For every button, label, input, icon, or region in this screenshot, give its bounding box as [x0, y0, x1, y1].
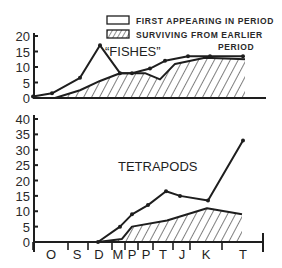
legend-label-first-appearing: FIRST APPEARING IN PERIOD: [136, 16, 274, 26]
surviving-area: [55, 58, 245, 98]
data-point: [208, 54, 212, 58]
data-point: [206, 198, 210, 202]
period-label: O: [46, 247, 56, 262]
y-tick-label: 40: [16, 112, 30, 127]
data-point: [130, 71, 134, 75]
y-tick-label: 10: [16, 204, 30, 219]
data-point: [241, 54, 245, 58]
data-point: [164, 189, 168, 193]
period-label: M: [113, 247, 124, 262]
legend-swatch-first-appearing: [107, 16, 129, 24]
period-label: P: [128, 247, 137, 262]
legend-label-surviving: SURVIVING FROM EARLIER: [136, 30, 263, 40]
y-tick-label: 35: [16, 127, 30, 142]
y-tick-label: 20: [16, 174, 30, 189]
data-point: [78, 76, 82, 80]
data-point: [118, 225, 122, 229]
data-point: [50, 91, 54, 95]
period-label: P: [142, 247, 151, 262]
data-point: [241, 139, 245, 143]
y-tick-label: 15: [16, 189, 30, 204]
chart-figure: FIRST APPEARING IN PERIOD SURVIVING FROM…: [0, 0, 282, 268]
fishes-title: “FISHES”: [105, 44, 161, 59]
data-point: [148, 67, 152, 71]
y-tick-label: 15: [16, 45, 30, 60]
y-tick-label: 30: [16, 143, 30, 158]
tetrapods-plot-area: [96, 139, 245, 244]
data-point: [163, 59, 167, 63]
y-tick-label: 25: [16, 158, 30, 173]
period-label: J: [179, 247, 186, 262]
period-label: T: [239, 247, 247, 262]
legend-swatch-surviving: [107, 30, 129, 38]
data-point: [186, 54, 190, 58]
period-ticks: OSDMPPTJKT: [33, 242, 247, 262]
data-point: [146, 203, 150, 207]
data-point: [98, 43, 102, 47]
data-point: [130, 212, 134, 216]
period-label: T: [159, 247, 167, 262]
data-point: [178, 194, 182, 198]
y-tick-label: 5: [23, 220, 30, 235]
y-tick-label: 10: [16, 60, 30, 75]
y-tick-label: 5: [23, 76, 30, 91]
y-tick-label: 0: [23, 91, 30, 106]
data-point: [118, 71, 122, 75]
tetrapods-chart: 4035302520151050 OSDMPPTJKT TETRAPODS: [16, 112, 264, 262]
fishes-chart: 20151050 “FISHES”: [16, 29, 266, 106]
period-label: D: [94, 247, 103, 262]
period-label: K: [202, 247, 211, 262]
period-label: S: [73, 247, 82, 262]
y-tick-label: 20: [16, 29, 30, 44]
legend-label-surviving-cont: PERIOD: [218, 42, 254, 52]
y-tick-label: 0: [23, 235, 30, 250]
tetrapods-title: TETRAPODS: [118, 159, 198, 174]
